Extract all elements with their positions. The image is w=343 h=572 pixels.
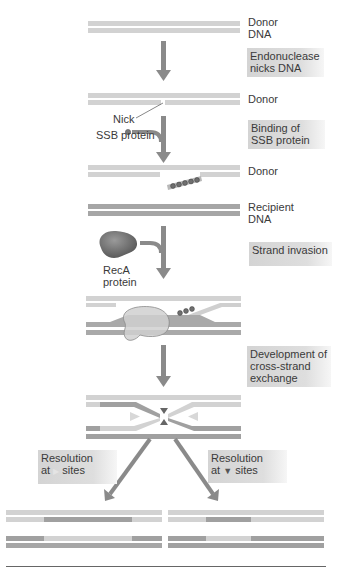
step-line: exchange bbox=[250, 372, 327, 384]
label-donor-2: Donor bbox=[248, 93, 278, 105]
label-dna-line2: DNA bbox=[248, 213, 294, 225]
step-word: at bbox=[211, 464, 220, 476]
product-right bbox=[168, 510, 324, 548]
step-line: cross-strand bbox=[250, 360, 327, 372]
step-resolution-right: Resolution at ▼ sites bbox=[208, 450, 287, 483]
nicked-donor-dna bbox=[88, 93, 240, 118]
label-dna-line2: DNA bbox=[248, 28, 278, 40]
step-endonuclease: Endonuclease nicks DNA bbox=[247, 48, 324, 77]
step-strand-invasion: Strand invasion bbox=[249, 242, 332, 266]
label-donor-line1: Donor bbox=[248, 16, 278, 28]
label-protein-line2: protein bbox=[103, 276, 137, 288]
step-line: at ▼ sites bbox=[211, 464, 283, 477]
donor-dna-duplex bbox=[88, 21, 240, 33]
down-arrow-3 bbox=[140, 226, 171, 279]
step-line: Resolution bbox=[41, 452, 113, 464]
step-line: nicks DNA bbox=[250, 62, 320, 74]
recombination-diagram bbox=[0, 0, 343, 572]
down-arrow-4 bbox=[156, 345, 171, 387]
step-line: at ▶ sites bbox=[41, 464, 113, 478]
recipient-dna-duplex bbox=[88, 204, 240, 216]
label-reca-protein: RecA protein bbox=[103, 264, 137, 288]
label-donor-dna: Donor DNA bbox=[248, 16, 278, 40]
step-word: at bbox=[41, 464, 50, 476]
step-line: Strand invasion bbox=[252, 244, 328, 256]
label-recipient-line1: Recipient bbox=[248, 201, 294, 213]
step-line: Endonuclease bbox=[250, 50, 320, 62]
product-left bbox=[6, 510, 162, 548]
label-nick: Nick bbox=[113, 113, 134, 125]
vertical-triangle-site-icon: ▼ bbox=[223, 466, 232, 476]
label-donor-3: Donor bbox=[248, 165, 278, 177]
step-word: sites bbox=[62, 464, 85, 476]
caption-rule bbox=[6, 566, 326, 567]
step-word: sites bbox=[235, 464, 258, 476]
donor-with-ssb bbox=[88, 165, 240, 190]
reca-protein-shape bbox=[99, 231, 137, 258]
strand-invasion-complex bbox=[86, 296, 241, 340]
step-cross-strand-exchange: Development of cross-strand exchange bbox=[247, 346, 331, 387]
step-line: Resolution bbox=[211, 452, 283, 464]
cross-strand-exchange bbox=[86, 395, 241, 439]
label-reca-line1: RecA bbox=[103, 264, 137, 276]
step-line: Binding of bbox=[251, 122, 321, 134]
step-line: SSB protein bbox=[251, 134, 321, 146]
label-recipient-dna: Recipient DNA bbox=[248, 201, 294, 225]
step-line: Development of bbox=[250, 348, 327, 360]
horizontal-triangle-site-icon: ▶ bbox=[53, 467, 59, 476]
label-ssb-protein: SSB protein bbox=[96, 129, 155, 141]
step-resolution-left: Resolution at ▶ sites bbox=[38, 450, 117, 484]
step-ssb-binding: Binding of SSB protein bbox=[248, 120, 325, 149]
down-arrow-1 bbox=[156, 41, 171, 81]
